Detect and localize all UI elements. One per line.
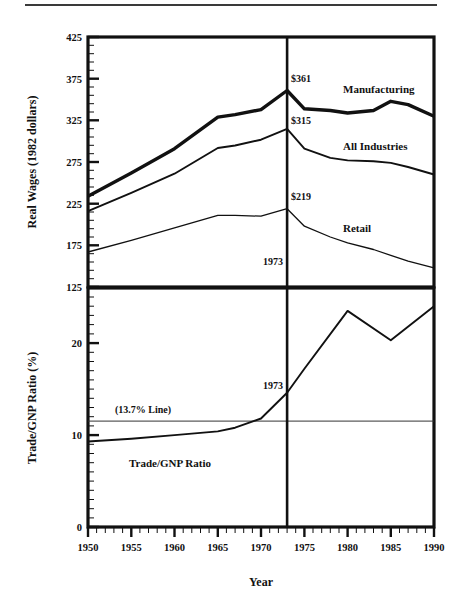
annotation-315: $315: [291, 115, 311, 126]
top-ytick-175: 175: [66, 240, 82, 251]
xtick-1955: 1955: [121, 542, 142, 553]
bottom-panel-1973-label: 1973: [263, 380, 283, 391]
series-label-retail: Retail: [343, 222, 371, 234]
top-ytick-425: 425: [66, 32, 82, 43]
bottom-ytick-0: 0: [77, 522, 82, 533]
figure-root: 425 375 325 275 225 175 125 Real Wages (…: [0, 0, 462, 614]
bottom-ytick-10: 10: [72, 430, 83, 441]
dual-panel-line-chart: 425 375 325 275 225 175 125 Real Wages (…: [0, 0, 462, 614]
bottom-panel-y-axis-title: Trade/GNP Ratio (%): [25, 352, 39, 464]
series-label-trade-gnp: Trade/GNP Ratio: [129, 457, 211, 469]
annotation-219: $219: [291, 191, 311, 202]
top-ytick-275: 275: [66, 157, 82, 168]
top-ytick-325: 325: [66, 115, 82, 126]
annotation-361: $361: [291, 73, 311, 84]
top-ytick-125: 125: [66, 282, 82, 293]
top-panel-y-axis-title: Real Wages (1982 dollars): [25, 96, 39, 229]
xtick-1960: 1960: [164, 542, 185, 553]
xtick-1965: 1965: [207, 542, 228, 553]
series-line-retail: [88, 209, 434, 268]
top-ytick-225: 225: [66, 199, 82, 210]
xtick-1950: 1950: [78, 542, 99, 553]
xtick-1975: 1975: [294, 542, 315, 553]
x-axis-title: Year: [249, 575, 274, 589]
series-label-manufacturing: Manufacturing: [343, 83, 415, 95]
xtick-1985: 1985: [380, 542, 401, 553]
top-panel-1973-label: 1973: [263, 256, 283, 267]
top-ytick-375: 375: [66, 74, 82, 85]
annotation-reference-line: (13.7% Line): [115, 404, 171, 416]
xtick-1980: 1980: [337, 542, 358, 553]
xtick-1990: 1990: [424, 542, 445, 553]
xtick-1970: 1970: [251, 542, 272, 553]
series-label-all-industries: All Industries: [343, 140, 408, 152]
bottom-ytick-20: 20: [72, 338, 83, 349]
